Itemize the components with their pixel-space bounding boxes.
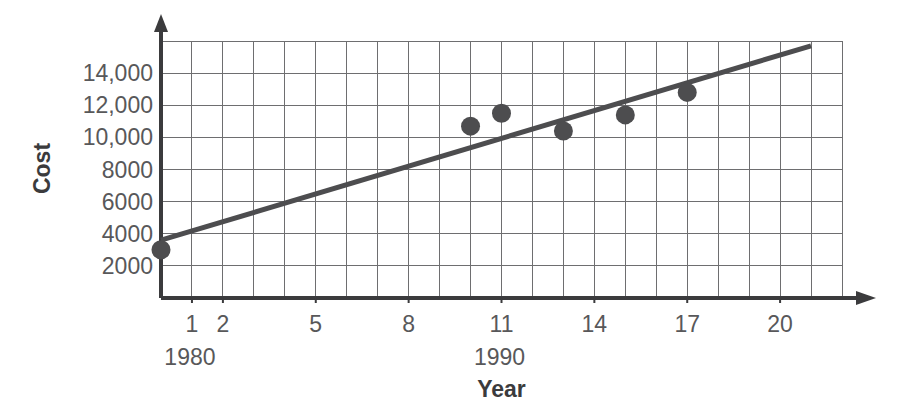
y-axis-tick-label: 6000 bbox=[0, 190, 153, 213]
x-axis-tick-label: 8 bbox=[402, 313, 415, 336]
data-point bbox=[616, 105, 635, 124]
x-axis-decade-label: 1990 bbox=[474, 346, 525, 369]
data-point bbox=[678, 83, 697, 102]
y-axis-tick-label: 4000 bbox=[0, 222, 153, 245]
x-axis-decade-label: 1980 bbox=[164, 346, 215, 369]
y-axis-tick-label: 14,000 bbox=[0, 62, 153, 85]
data-point bbox=[554, 121, 573, 140]
x-axis-tick-label: 5 bbox=[309, 313, 322, 336]
y-axis-title: Cost bbox=[31, 119, 54, 219]
x-axis-tick-label: 11 bbox=[490, 313, 514, 336]
chart-page: 200040006000800010,00012,00014,000 12581… bbox=[0, 0, 901, 415]
trend-line bbox=[161, 46, 811, 240]
scatter-plot-figure: 200040006000800010,00012,00014,000 12581… bbox=[0, 0, 901, 415]
y-axis-tick-label: 12,000 bbox=[0, 94, 153, 117]
data-points bbox=[152, 83, 697, 259]
y-axis-tick-label: 2000 bbox=[0, 254, 153, 277]
x-axis-tick-label: 20 bbox=[767, 313, 793, 336]
x-axis-tick-label: 2 bbox=[217, 313, 230, 336]
data-point bbox=[461, 117, 480, 136]
x-axis-tick-label: 17 bbox=[674, 313, 700, 336]
data-point bbox=[492, 104, 511, 123]
y-axis-tick-label: 10,000 bbox=[0, 126, 153, 149]
y-axis-tick-label: 8000 bbox=[0, 158, 153, 181]
x-axis-tick-label: 14 bbox=[582, 313, 608, 336]
grid-lines bbox=[161, 41, 842, 298]
x-axis-title: Year bbox=[477, 378, 526, 401]
x-axis-tick-label: 1 bbox=[186, 313, 199, 336]
data-point bbox=[152, 240, 171, 259]
